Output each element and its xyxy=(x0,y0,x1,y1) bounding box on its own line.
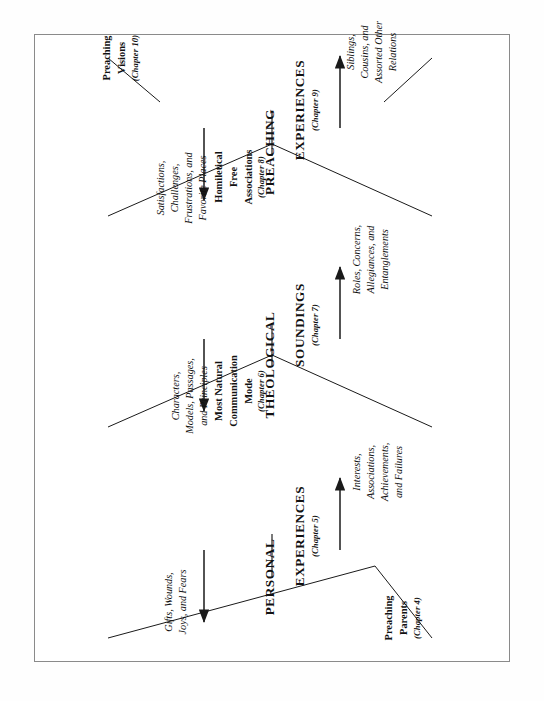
level-preaching-chapter: (Chapter 9) xyxy=(310,30,321,190)
level-theological-left-label: Characters, Models, Passages, and Princi… xyxy=(169,326,211,466)
level-personal-word2: EXPERIENCES xyxy=(292,456,309,616)
level-preaching-left-label: Satisfactions, Challenges, Frustrations,… xyxy=(154,118,210,258)
level-theological-word2: SOUNDINGS xyxy=(292,250,309,400)
level-personal-left-label: Gifts, Wounds, Joys, and Fears xyxy=(162,537,190,667)
node-preaching-parents-label: Preaching Parents xyxy=(382,558,412,678)
node-preaching-visions-label: Preaching Visions xyxy=(100,0,130,120)
level-preaching-word2: EXPERIENCES xyxy=(292,30,309,190)
node-free-associations-chapter: (Chapter 8) xyxy=(256,112,267,242)
node-preaching-visions-chapter: (Chapter 10) xyxy=(130,0,141,120)
level-preaching-right-label: Siblings, Cousins, and Assorted Other Re… xyxy=(344,0,400,122)
node-natural-mode-chapter: (Chapter 6) xyxy=(256,326,267,456)
node-natural-mode-label: Most Natural Communication Mode xyxy=(212,326,256,456)
level-personal-word1: PERSONAL xyxy=(262,512,279,642)
page-frame: PERSONAL EXPERIENCES (Chapter 5) Gifts, … xyxy=(34,34,510,662)
rotated-diagram: PERSONAL EXPERIENCES (Chapter 5) Gifts, … xyxy=(34,34,510,662)
figure-page: PERSONAL EXPERIENCES (Chapter 5) Gifts, … xyxy=(0,0,544,701)
node-free-associations-label: Homiletical Free Associations xyxy=(212,112,256,242)
level-theological-right-label: Roles, Concerns, Allegiances, and Entang… xyxy=(350,187,392,332)
level-personal-right-label: Interests, Associations, Achievements, a… xyxy=(350,402,406,542)
node-preaching-parents-chapter: (Chapter 4) xyxy=(412,558,423,678)
level-personal-chapter: (Chapter 5) xyxy=(310,456,321,616)
level-theological-chapter: (Chapter 7) xyxy=(310,250,321,400)
